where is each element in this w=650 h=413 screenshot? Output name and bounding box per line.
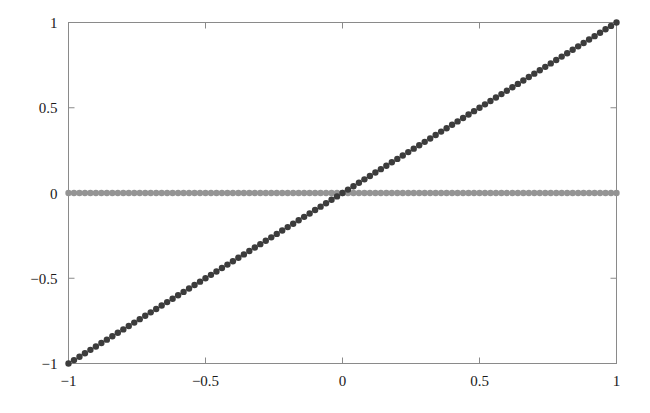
- data-point: [575, 190, 581, 196]
- data-point: [263, 238, 269, 244]
- data-point: [591, 190, 597, 196]
- data-point: [213, 268, 219, 274]
- data-point: [180, 289, 186, 295]
- data-point: [487, 190, 493, 196]
- data-point: [235, 190, 241, 196]
- data-point: [109, 190, 115, 196]
- data-point: [169, 190, 175, 196]
- data-point: [454, 118, 460, 124]
- data-point: [235, 255, 241, 261]
- data-point: [482, 101, 488, 107]
- data-point: [504, 190, 510, 196]
- data-point: [449, 122, 455, 128]
- data-point: [312, 207, 318, 213]
- data-point: [400, 190, 406, 196]
- data-point: [306, 210, 312, 216]
- data-point: [422, 139, 428, 145]
- data-point: [526, 190, 532, 196]
- data-point: [230, 258, 236, 264]
- data-point: [301, 214, 307, 220]
- data-point: [120, 190, 126, 196]
- data-point: [465, 190, 471, 196]
- data-point: [438, 128, 444, 134]
- data-point: [493, 94, 499, 100]
- data-point: [542, 190, 548, 196]
- data-point: [542, 64, 548, 70]
- x-tick-label: 0: [339, 373, 347, 389]
- data-point: [569, 190, 575, 196]
- data-point: [476, 190, 482, 196]
- data-point: [175, 190, 181, 196]
- data-point: [559, 53, 565, 59]
- data-point: [504, 88, 510, 94]
- data-point: [449, 190, 455, 196]
- data-point: [246, 248, 252, 254]
- data-point: [76, 190, 82, 196]
- data-point: [613, 19, 619, 25]
- data-point: [153, 306, 159, 312]
- data-point: [268, 190, 274, 196]
- data-point: [279, 227, 285, 233]
- data-point: [432, 190, 438, 196]
- plot-canvas: −1−0.500.51 −1−0.500.51: [0, 0, 650, 413]
- data-point: [120, 326, 126, 332]
- data-point: [498, 91, 504, 97]
- data-point: [87, 190, 93, 196]
- data-point: [87, 347, 93, 353]
- data-point: [208, 272, 214, 278]
- data-point: [285, 224, 291, 230]
- data-point: [443, 125, 449, 131]
- data-point: [268, 234, 274, 240]
- data-point: [515, 190, 521, 196]
- data-point: [378, 166, 384, 172]
- data-point: [586, 190, 592, 196]
- data-point: [602, 26, 608, 32]
- data-point: [65, 190, 71, 196]
- data-point: [493, 190, 499, 196]
- y-tick-label: 1: [50, 15, 58, 31]
- data-point: [537, 190, 543, 196]
- data-point: [509, 190, 515, 196]
- data-point: [137, 316, 143, 322]
- data-point: [411, 190, 417, 196]
- y-axis-tick-labels: −1−0.500.51: [30, 15, 57, 372]
- data-point: [202, 275, 208, 281]
- data-point: [569, 47, 575, 53]
- data-point: [252, 244, 258, 250]
- data-point: [515, 81, 521, 87]
- data-point: [372, 169, 378, 175]
- data-point: [427, 190, 433, 196]
- data-point: [246, 190, 252, 196]
- data-point: [295, 217, 301, 223]
- data-point: [241, 190, 247, 196]
- data-point: [104, 336, 110, 342]
- data-point: [224, 261, 230, 267]
- data-point: [367, 173, 373, 179]
- data-point: [487, 98, 493, 104]
- data-point: [361, 176, 367, 182]
- y-tick-label: 0: [50, 186, 58, 202]
- data-point: [411, 145, 417, 151]
- data-point: [71, 190, 77, 196]
- data-point: [274, 231, 280, 237]
- data-point: [93, 343, 99, 349]
- data-point: [148, 309, 154, 315]
- data-point: [553, 57, 559, 63]
- data-point: [191, 190, 197, 196]
- data-point: [202, 190, 208, 196]
- data-point: [367, 190, 373, 196]
- data-point: [76, 353, 82, 359]
- data-point: [520, 77, 526, 83]
- data-point: [306, 190, 312, 196]
- data-point: [454, 190, 460, 196]
- data-point: [531, 190, 537, 196]
- data-point: [312, 190, 318, 196]
- data-point: [476, 105, 482, 111]
- data-point: [285, 190, 291, 196]
- data-point: [460, 190, 466, 196]
- data-point: [186, 190, 192, 196]
- x-tick-label: −0.5: [192, 373, 219, 389]
- data-point: [416, 190, 422, 196]
- data-point: [230, 190, 236, 196]
- data-point: [602, 190, 608, 196]
